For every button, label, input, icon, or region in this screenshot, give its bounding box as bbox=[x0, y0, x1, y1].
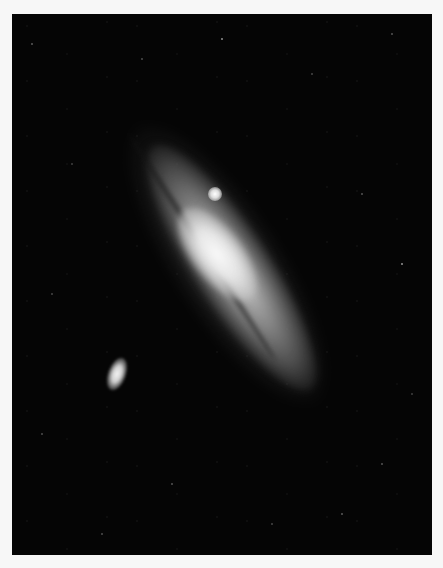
galaxy-photograph: Spiral galaxy with two satellite galaxie… bbox=[12, 14, 432, 555]
satellite-galaxy-upper bbox=[208, 187, 222, 201]
